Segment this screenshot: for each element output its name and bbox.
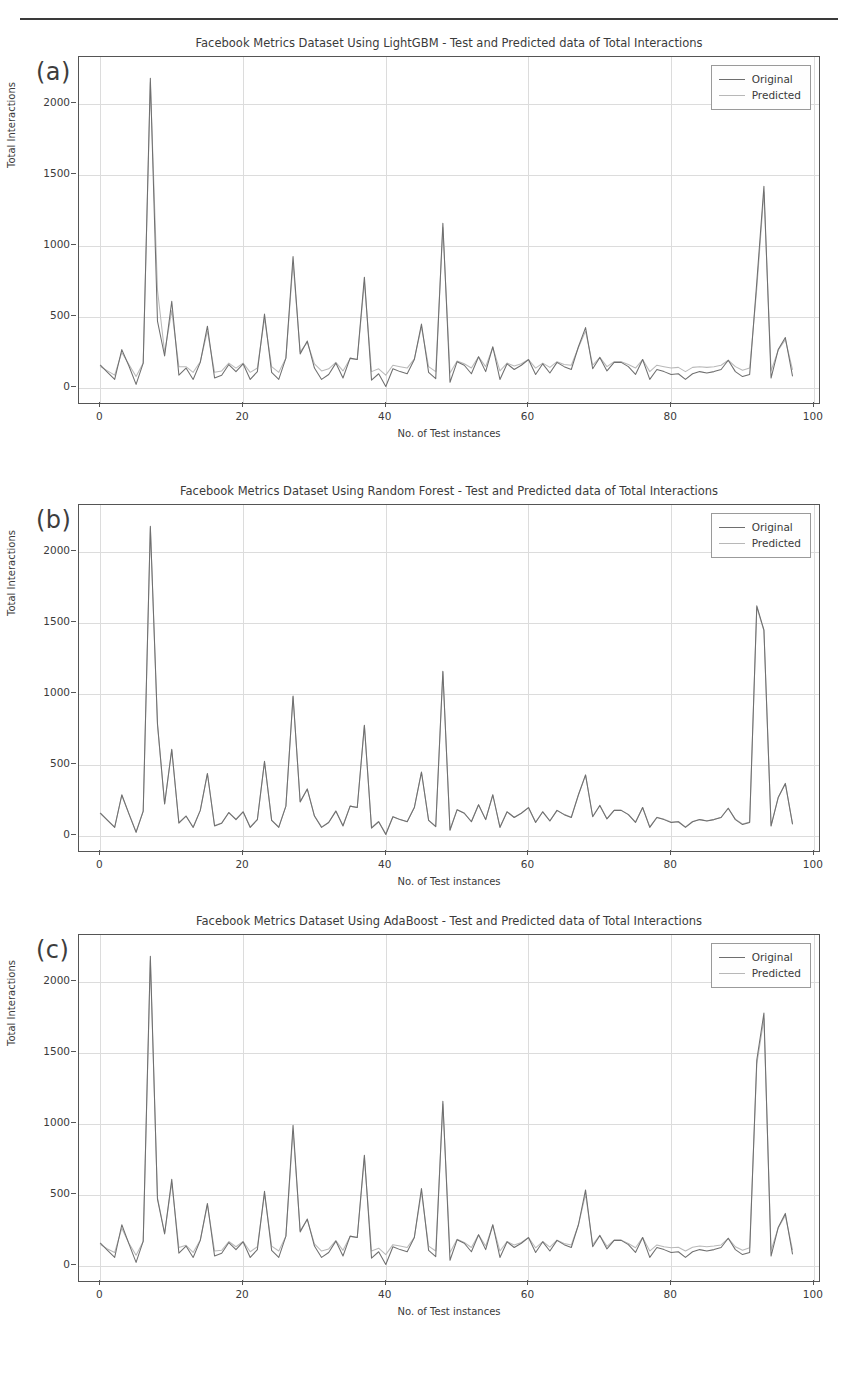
x-tick-label: 100 xyxy=(793,1288,833,1300)
x-axis-label-b: No. of Test instances xyxy=(78,876,820,887)
legend-label-original: Original xyxy=(752,519,793,535)
series-svg-a xyxy=(79,57,821,405)
legend-label-predicted: Predicted xyxy=(752,87,801,103)
y-tick-label: 2000 xyxy=(24,96,70,108)
legend-line-predicted-icon xyxy=(719,95,745,96)
x-tick-label: 80 xyxy=(650,410,690,422)
x-tick-mark xyxy=(670,850,671,855)
x-axis-label-c: No. of Test instances xyxy=(78,1306,820,1317)
y-tick-mark xyxy=(71,244,76,245)
x-tick-mark xyxy=(527,1280,528,1285)
y-tick-mark xyxy=(71,386,76,387)
y-axis-label-c: Total Interactions xyxy=(6,960,17,1046)
legend-row-predicted: Predicted xyxy=(719,965,801,981)
series-svg-b xyxy=(79,505,821,853)
y-tick-label: 0 xyxy=(24,828,70,840)
y-tick-mark xyxy=(71,1193,76,1194)
line-original-b xyxy=(100,526,792,834)
x-tick-mark xyxy=(385,1280,386,1285)
x-tick-mark xyxy=(670,402,671,407)
legend-line-predicted-icon xyxy=(719,543,745,544)
y-tick-label: 1000 xyxy=(24,1116,70,1128)
chart-title-c: Facebook Metrics Dataset Using AdaBoost … xyxy=(78,914,820,928)
x-tick-mark xyxy=(813,850,814,855)
panel-letter-b: (b) xyxy=(36,506,71,534)
y-tick-mark xyxy=(71,102,76,103)
page-header-rule xyxy=(20,18,838,20)
legend-label-predicted: Predicted xyxy=(752,535,801,551)
y-tick-label: 2000 xyxy=(24,544,70,556)
x-tick-mark xyxy=(99,402,100,407)
y-tick-label: 500 xyxy=(24,1187,70,1199)
y-tick-label: 0 xyxy=(24,1258,70,1270)
chart-title-b: Facebook Metrics Dataset Using Random Fo… xyxy=(78,484,820,498)
legend-label-original: Original xyxy=(752,71,793,87)
y-tick-mark xyxy=(71,621,76,622)
legend-row-predicted: Predicted xyxy=(719,535,801,551)
plot-area-a: Original Predicted xyxy=(78,56,820,404)
chart-panel-a: (a) Facebook Metrics Dataset Using Light… xyxy=(0,30,854,480)
x-tick-label: 0 xyxy=(79,1288,119,1300)
x-tick-label: 100 xyxy=(793,858,833,870)
x-tick-label: 60 xyxy=(507,410,547,422)
x-tick-label: 20 xyxy=(222,410,262,422)
legend-c: Original Predicted xyxy=(711,943,811,988)
legend-label-predicted: Predicted xyxy=(752,965,801,981)
x-tick-label: 20 xyxy=(222,1288,262,1300)
x-tick-mark xyxy=(385,850,386,855)
y-tick-mark xyxy=(71,763,76,764)
y-tick-mark xyxy=(71,1122,76,1123)
y-tick-label: 0 xyxy=(24,380,70,392)
line-original-c xyxy=(100,956,792,1264)
chart-panel-b: (b) Facebook Metrics Dataset Using Rando… xyxy=(0,478,854,928)
legend-a: Original Predicted xyxy=(711,65,811,110)
x-tick-mark xyxy=(242,402,243,407)
x-tick-label: 40 xyxy=(365,1288,405,1300)
plot-area-c: Original Predicted xyxy=(78,934,820,1282)
x-tick-mark xyxy=(527,850,528,855)
x-tick-label: 40 xyxy=(365,858,405,870)
legend-line-original-icon xyxy=(719,957,745,958)
panel-letter-a: (a) xyxy=(36,58,71,86)
panel-letter-c: (c) xyxy=(36,936,69,964)
legend-b: Original Predicted xyxy=(711,513,811,558)
x-tick-label: 100 xyxy=(793,410,833,422)
x-tick-mark xyxy=(99,850,100,855)
x-tick-label: 0 xyxy=(79,410,119,422)
x-tick-mark xyxy=(670,1280,671,1285)
x-tick-mark xyxy=(385,402,386,407)
x-tick-mark xyxy=(99,1280,100,1285)
y-tick-label: 2000 xyxy=(24,974,70,986)
y-tick-mark xyxy=(71,315,76,316)
x-tick-mark xyxy=(242,850,243,855)
line-original-a xyxy=(100,78,792,386)
chart-panel-c: (c) Facebook Metrics Dataset Using AdaBo… xyxy=(0,908,854,1358)
legend-row-original: Original xyxy=(719,949,801,965)
y-tick-mark xyxy=(71,834,76,835)
y-tick-mark xyxy=(71,550,76,551)
y-tick-label: 1000 xyxy=(24,238,70,250)
y-tick-label: 1000 xyxy=(24,686,70,698)
y-tick-label: 1500 xyxy=(24,167,70,179)
legend-row-original: Original xyxy=(719,519,801,535)
y-tick-mark xyxy=(71,692,76,693)
x-tick-mark xyxy=(813,402,814,407)
x-tick-label: 80 xyxy=(650,1288,690,1300)
legend-row-original: Original xyxy=(719,71,801,87)
y-tick-label: 1500 xyxy=(24,1045,70,1057)
y-tick-mark xyxy=(71,173,76,174)
legend-line-original-icon xyxy=(719,79,745,80)
line-predicted-a xyxy=(100,83,792,377)
y-tick-label: 500 xyxy=(24,757,70,769)
figure-page: (a) Facebook Metrics Dataset Using Light… xyxy=(0,0,854,1374)
plot-area-b: Original Predicted xyxy=(78,504,820,852)
y-axis-label-a: Total Interactions xyxy=(6,82,17,168)
legend-row-predicted: Predicted xyxy=(719,87,801,103)
y-tick-mark xyxy=(71,980,76,981)
y-tick-mark xyxy=(71,1051,76,1052)
y-tick-mark xyxy=(71,1264,76,1265)
x-tick-label: 20 xyxy=(222,858,262,870)
y-tick-label: 1500 xyxy=(24,615,70,627)
x-axis-label-a: No. of Test instances xyxy=(78,428,820,439)
x-tick-label: 60 xyxy=(507,1288,547,1300)
